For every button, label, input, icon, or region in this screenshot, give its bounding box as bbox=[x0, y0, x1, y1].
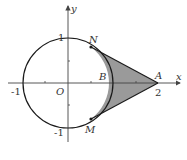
x-tick-2: 2 bbox=[155, 87, 161, 98]
y-axis-label: y bbox=[70, 3, 77, 14]
origin-label: O bbox=[56, 86, 64, 97]
x-tick-neg1: -1 bbox=[11, 86, 21, 97]
coordinate-diagram: y x O 1 -1 -1 2 N M B A bbox=[0, 0, 187, 160]
y-tick-1: 1 bbox=[58, 32, 64, 43]
point-N bbox=[89, 45, 92, 48]
label-N: N bbox=[88, 34, 99, 45]
label-M: M bbox=[84, 124, 96, 135]
y-tick-neg1: -1 bbox=[54, 127, 64, 138]
point-M bbox=[89, 117, 92, 120]
label-B: B bbox=[98, 71, 106, 82]
x-axis-label: x bbox=[176, 71, 182, 82]
label-A: A bbox=[154, 70, 162, 81]
